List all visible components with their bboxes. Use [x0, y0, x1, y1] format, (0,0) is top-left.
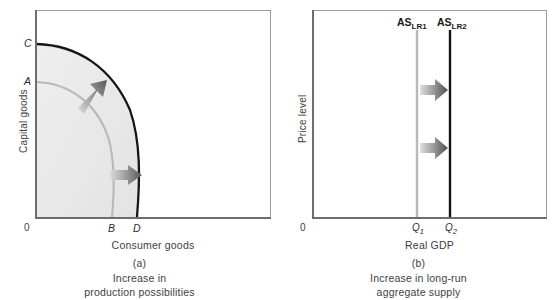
x-axis-title-a: Consumer goods [35, 239, 271, 251]
ppf-graphic [0, 0, 279, 300]
panel-a-tag: (a) [0, 256, 279, 270]
as-lr1-sub: LR1 [412, 22, 427, 31]
panel-b-tag: (b) [279, 256, 558, 270]
label-point-a: A [24, 75, 31, 87]
label-point-b: B [108, 222, 115, 234]
as-lr2-sub: LR2 [452, 22, 467, 31]
x-axis-b [312, 217, 547, 219]
q2-sub: 2 [453, 227, 457, 236]
as-lr2-base: AS [437, 16, 452, 28]
panel-a-caption-line1: Increase in [0, 271, 279, 285]
y-axis-title-b: Price level [297, 95, 308, 143]
q2-label: Q2 [445, 222, 457, 236]
x-axis-title-b: Real GDP [312, 239, 547, 251]
as-graphic [279, 0, 558, 300]
as-lr2-label: ASLR2 [437, 16, 467, 31]
as-shift-arrow-lower [420, 137, 448, 159]
panel-b-caption-line2: aggregate supply [279, 285, 558, 299]
panel-b-aggregate-supply: Price level ASLR1 ASLR2 Q1 Q2 0 Real GDP… [279, 0, 558, 300]
as-lr1-base: AS [397, 16, 412, 28]
y-axis-title-a: Capital goods [18, 89, 29, 153]
y-axis-a [35, 10, 37, 219]
panel-a-caption-line2: production possibilities [0, 285, 279, 299]
as-shift-arrow-upper [420, 79, 448, 101]
q2-base: Q [445, 222, 453, 233]
economics-figure: Capital goods C A B D 0 Consumer goods (… [0, 0, 558, 300]
panel-b-caption-line1: Increase in long-run [279, 271, 558, 285]
y-axis-b [312, 10, 314, 219]
origin-label-b: 0 [300, 222, 306, 233]
q1-sub: 1 [420, 227, 424, 236]
q1-base: Q [412, 222, 420, 233]
label-point-c: C [24, 37, 32, 49]
label-point-d: D [133, 222, 141, 234]
origin-label-a: 0 [24, 222, 30, 233]
q1-label: Q1 [412, 222, 424, 236]
as-lr1-label: ASLR1 [397, 16, 427, 31]
x-axis-a [35, 217, 271, 219]
ppf-shaded-region [36, 44, 139, 217]
panel-a-production-possibilities: Capital goods C A B D 0 Consumer goods (… [0, 0, 279, 300]
